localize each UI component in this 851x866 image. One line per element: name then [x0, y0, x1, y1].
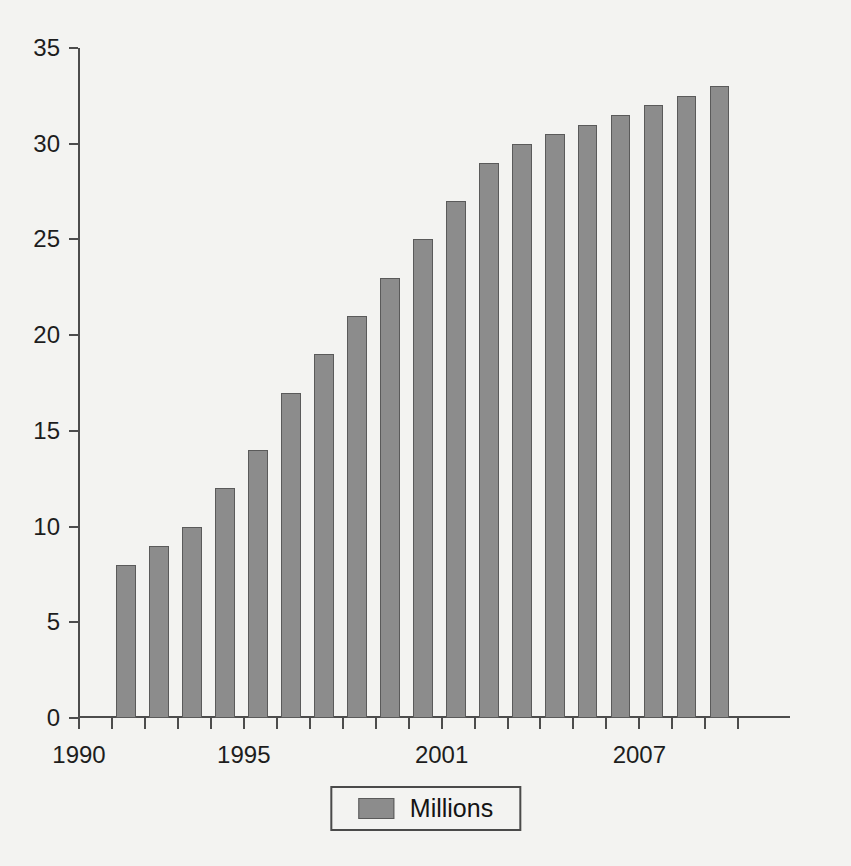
y-tick-label-0: 0	[47, 706, 60, 730]
y-tick-label-5: 5	[47, 610, 60, 634]
x-tick-2006	[605, 718, 607, 729]
x-tick-2000	[408, 718, 410, 729]
y-tick-5: 5	[69, 621, 78, 623]
bar-2001	[446, 201, 466, 718]
y-tick-label-30: 30	[33, 132, 60, 156]
bar-1997	[314, 354, 334, 718]
bar-1994	[215, 488, 235, 718]
y-tick-label-10: 10	[33, 515, 60, 539]
y-tick-35: 35	[69, 47, 78, 49]
y-tick-0: 0	[69, 717, 78, 719]
chart-page: 05101520253035 1990199520012007 Millions	[0, 0, 851, 866]
y-tick-label-35: 35	[33, 36, 60, 60]
legend-swatch-millions	[358, 798, 394, 819]
x-tick-2007: 2007	[638, 718, 640, 729]
x-tick-2002	[474, 718, 476, 729]
x-tick-2005	[572, 718, 574, 729]
bar-2008	[677, 96, 697, 718]
bar-2005	[578, 125, 598, 718]
x-tick-2003	[507, 718, 509, 729]
y-tick-label-15: 15	[33, 419, 60, 443]
x-tick-2010	[737, 718, 739, 729]
bar-1999	[380, 278, 400, 718]
x-tick-1999	[375, 718, 377, 729]
y-tick-label-20: 20	[33, 323, 60, 347]
y-tick-20: 20	[69, 334, 78, 336]
bar-1998	[347, 316, 367, 718]
x-tick-2009	[704, 718, 706, 729]
x-tick-1990: 1990	[78, 718, 80, 729]
bar-1993	[182, 527, 202, 718]
bar-2000	[413, 239, 433, 718]
x-tick-1998	[342, 718, 344, 729]
legend-label-millions: Millions	[410, 796, 493, 821]
x-tick-label-1995: 1995	[217, 743, 270, 767]
x-tick-1997	[309, 718, 311, 729]
bar-1995	[248, 450, 268, 718]
bar-1991	[116, 565, 136, 718]
y-tick-10: 10	[69, 526, 78, 528]
y-tick-30: 30	[69, 143, 78, 145]
plot-area: 05101520253035 1990199520012007	[78, 48, 790, 718]
chart-legend: Millions	[330, 786, 521, 831]
x-tick-2001: 2001	[441, 718, 443, 729]
figure-caption	[70, 856, 810, 866]
bar-2006	[611, 115, 631, 718]
x-tick-1993	[177, 718, 179, 729]
y-tick-label-25: 25	[33, 227, 60, 251]
bar-2009	[710, 86, 730, 718]
bar-2002	[479, 163, 499, 718]
y-axis-line	[78, 48, 80, 718]
x-tick-label-2001: 2001	[415, 743, 468, 767]
y-tick-15: 15	[69, 430, 78, 432]
y-tick-25: 25	[69, 238, 78, 240]
x-tick-1994	[210, 718, 212, 729]
x-tick-label-2007: 2007	[613, 743, 666, 767]
x-tick-2004	[539, 718, 541, 729]
bar-2004	[545, 134, 565, 718]
bar-2003	[512, 144, 532, 718]
x-tick-1992	[144, 718, 146, 729]
x-tick-1996	[276, 718, 278, 729]
bar-1996	[281, 393, 301, 718]
x-tick-2008	[671, 718, 673, 729]
x-tick-1995: 1995	[243, 718, 245, 729]
x-tick-1991	[111, 718, 113, 729]
x-tick-label-1990: 1990	[52, 743, 105, 767]
bar-1992	[149, 546, 169, 718]
bar-2007	[644, 105, 664, 718]
